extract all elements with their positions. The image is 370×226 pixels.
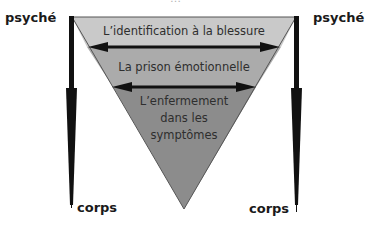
band-label-line: L’enfermement [124, 93, 244, 110]
right-top-label: psyché [313, 10, 364, 25]
left-bottom-label: corps [77, 200, 117, 215]
band-label-prison: La prison émotionnelle [94, 60, 274, 74]
band-label-line: symptômes [124, 127, 244, 144]
band-label-line: dans les [124, 110, 244, 127]
band-label-enfermement: L’enfermement dans les symptômes [124, 93, 244, 144]
diagram: … ps [0, 0, 370, 226]
right-bottom-label: corps [249, 201, 289, 216]
arrow-down-icon [291, 16, 302, 212]
band-label-identification: L’identification à la blessure [84, 24, 284, 38]
left-top-label: psyché [5, 10, 56, 25]
arrow-down-icon [66, 16, 77, 208]
